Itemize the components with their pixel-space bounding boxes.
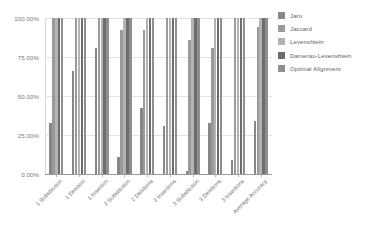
y-tick-label: 75.00% bbox=[18, 54, 39, 61]
bar[interactable] bbox=[220, 18, 222, 174]
x-axis-label: 2 Deletions bbox=[130, 178, 154, 202]
legend-swatch-icon bbox=[278, 38, 285, 45]
y-tick-label: 0.00% bbox=[21, 171, 39, 178]
legend-label: Damerau-Levenshtein bbox=[290, 52, 351, 59]
x-axis-label: 3 Deletions bbox=[198, 178, 222, 202]
legend-swatch-icon bbox=[278, 12, 285, 19]
plot-area: 0.00%25.00%50.00%75.00%100.00% 1 Substit… bbox=[0, 0, 275, 234]
bar[interactable] bbox=[265, 18, 267, 174]
y-tick-label: 100.00% bbox=[14, 15, 39, 22]
legend-swatch-icon bbox=[278, 25, 285, 32]
legend: JaroJaccardLevenshteinDamerau-Levenshtei… bbox=[278, 9, 378, 75]
legend-label: Optimal Alignment bbox=[290, 65, 341, 72]
legend-item[interactable]: Damerau-Levenshtein bbox=[278, 49, 378, 62]
bar[interactable] bbox=[61, 18, 63, 174]
bar[interactable] bbox=[129, 18, 131, 174]
y-tick-label: 50.00% bbox=[18, 93, 39, 100]
x-axis-label: 1 Deletion bbox=[64, 178, 86, 200]
bar[interactable] bbox=[152, 18, 154, 174]
bar-group bbox=[159, 18, 182, 174]
legend-label: Levenshtein bbox=[290, 38, 324, 45]
bar-group bbox=[68, 18, 91, 174]
bar-group bbox=[90, 18, 113, 174]
y-tick-label: 25.00% bbox=[18, 132, 39, 139]
y-axis: 0.00%25.00%50.00%75.00%100.00% bbox=[0, 18, 42, 174]
bar-group bbox=[181, 18, 204, 174]
legend-item[interactable]: Jaccard bbox=[278, 22, 378, 35]
legend-item[interactable]: Levenshtein bbox=[278, 35, 378, 48]
bar[interactable] bbox=[243, 18, 245, 174]
bar-group bbox=[45, 18, 68, 174]
bar[interactable] bbox=[197, 18, 199, 174]
bar[interactable] bbox=[106, 18, 108, 174]
legend-item[interactable]: Optimal Alignment bbox=[278, 62, 378, 75]
bar-group bbox=[227, 18, 250, 174]
x-axis-label: 1 Substitution bbox=[35, 178, 64, 207]
legend-swatch-icon bbox=[278, 65, 285, 72]
legend-item[interactable]: Jaro bbox=[278, 9, 378, 22]
bar-group bbox=[136, 18, 159, 174]
bar-chart: 0.00%25.00%50.00%75.00%100.00% 1 Substit… bbox=[0, 0, 380, 234]
legend-swatch-icon bbox=[278, 52, 285, 59]
bar[interactable] bbox=[84, 18, 86, 174]
legend-label: Jaro bbox=[290, 12, 302, 19]
bar[interactable] bbox=[175, 18, 177, 174]
bars-layer bbox=[45, 18, 272, 174]
bar-group bbox=[249, 18, 272, 174]
legend-label: Jaccard bbox=[290, 25, 312, 32]
bar-group bbox=[204, 18, 227, 174]
x-axis-labels: 1 Substitution1 Deletion1 Insertion2 Sub… bbox=[45, 178, 272, 234]
bar-group bbox=[113, 18, 136, 174]
